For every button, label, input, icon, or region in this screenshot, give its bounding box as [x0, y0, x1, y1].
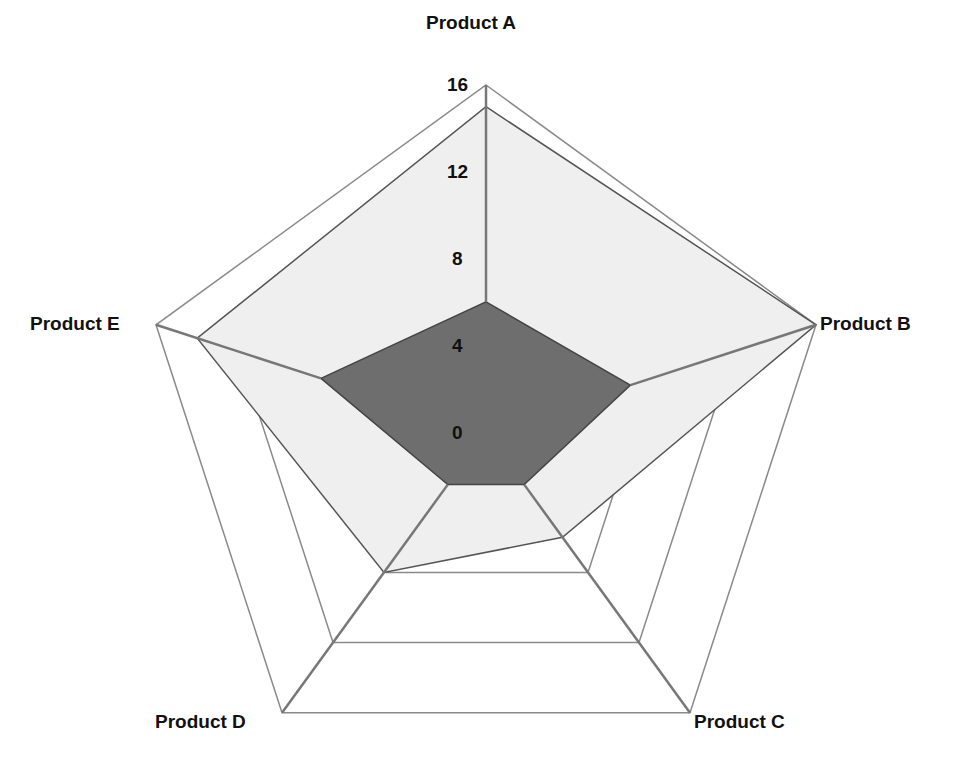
- tick-label-4: 4: [452, 335, 463, 357]
- radar-series: [197, 107, 816, 573]
- tick-label-12: 12: [447, 161, 468, 183]
- radar-chart: [0, 0, 969, 762]
- tick-label-8: 8: [452, 248, 463, 270]
- axis-label-product-e: Product E: [30, 313, 120, 335]
- spoke-product-c: [524, 485, 690, 713]
- axis-label-product-c: Product C: [694, 711, 785, 733]
- tick-label-16: 16: [447, 74, 468, 96]
- axis-label-product-a: Product A: [426, 12, 516, 34]
- tick-label-0: 0: [452, 422, 463, 444]
- axis-label-product-d: Product D: [155, 711, 246, 733]
- axis-label-product-b: Product B: [820, 313, 911, 335]
